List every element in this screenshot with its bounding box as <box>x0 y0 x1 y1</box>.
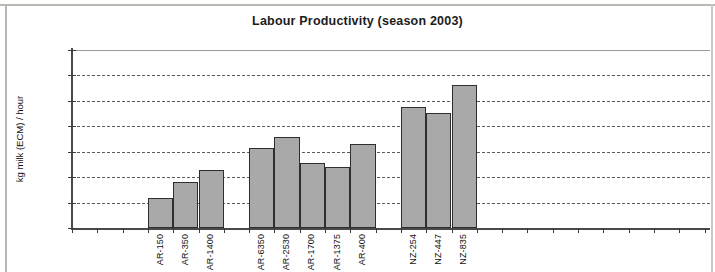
x-tick-mark-1 <box>97 228 98 233</box>
x-tick-mark-2 <box>123 228 124 233</box>
x-tick-label-ar-350: AR-350 <box>180 234 194 265</box>
x-axis-line <box>71 228 710 230</box>
y-tick-mark-50 <box>68 203 76 204</box>
x-tick-label-nz-447: NZ-447 <box>433 234 447 265</box>
plot-area: 050100150200250300350 AR-150AR-350AR-140… <box>72 50 710 228</box>
x-tick-label-ar-150: AR-150 <box>155 234 169 265</box>
page-frame-top-edge <box>0 4 715 6</box>
x-tick-label-ar-1700: AR-1700 <box>306 234 320 270</box>
x-tick-mark-6 <box>224 228 225 233</box>
bar-ar-1375 <box>325 167 350 228</box>
y-tick-mark-250 <box>68 101 76 102</box>
x-tick-label-nz-835: NZ-835 <box>458 234 472 265</box>
bar-ar-350 <box>173 182 198 228</box>
bar-ar-150 <box>148 198 173 229</box>
y-tick-mark-150 <box>68 152 76 153</box>
gridline-250 <box>72 101 710 102</box>
x-tick-mark-22 <box>629 228 630 233</box>
y-tick-mark-100 <box>68 177 76 178</box>
bar-ar-2530 <box>274 137 299 228</box>
x-tick-label-ar-2530: AR-2530 <box>281 234 295 270</box>
x-tick-label-ar-1400: AR-1400 <box>205 234 219 270</box>
bar-ar-1400 <box>199 170 224 228</box>
x-tick-mark-23 <box>654 228 655 233</box>
x-tick-mark-5 <box>199 228 200 233</box>
x-tick-mark-11 <box>350 228 351 233</box>
gridline-300 <box>72 75 710 76</box>
x-tick-label-ar-6350: AR-6350 <box>256 234 270 270</box>
x-tick-mark-7 <box>249 228 250 233</box>
bar-nz-835 <box>452 85 477 228</box>
x-tick-mark-4 <box>173 228 174 233</box>
page-frame-left-edge <box>5 4 7 272</box>
x-tick-mark-21 <box>603 228 604 233</box>
gridline-350 <box>72 50 710 51</box>
x-tick-label-ar-400: AR-400 <box>357 234 371 265</box>
x-tick-mark-20 <box>578 228 579 233</box>
x-tick-mark-17 <box>502 228 503 233</box>
chart-figure: Labour Productivity (season 2003) kg mil… <box>0 0 715 272</box>
page-frame-right-edge <box>711 4 713 272</box>
x-tick-label-ar-1375: AR-1375 <box>332 234 346 270</box>
x-tick-mark-12 <box>376 228 377 233</box>
x-tick-mark-9 <box>300 228 301 233</box>
x-tick-mark-10 <box>325 228 326 233</box>
x-tick-mark-8 <box>274 228 275 233</box>
gridline-200 <box>72 126 710 127</box>
x-tick-mark-25 <box>705 228 706 233</box>
x-tick-mark-19 <box>553 228 554 233</box>
x-tick-mark-3 <box>148 228 149 233</box>
y-tick-mark-350 <box>68 50 76 51</box>
y-tick-mark-300 <box>68 75 76 76</box>
x-tick-mark-13 <box>401 228 402 233</box>
y-axis-title: kg milk (ECM) / hour <box>14 50 28 228</box>
x-tick-mark-15 <box>452 228 453 233</box>
x-tick-mark-24 <box>679 228 680 233</box>
y-tick-mark-200 <box>68 126 76 127</box>
bar-nz-447 <box>426 113 451 228</box>
x-tick-mark-18 <box>527 228 528 233</box>
chart-title: Labour Productivity (season 2003) <box>0 14 715 28</box>
x-tick-mark-0 <box>72 228 73 233</box>
gridline-150 <box>72 152 710 153</box>
bar-nz-254 <box>401 107 426 228</box>
x-tick-mark-16 <box>477 228 478 233</box>
gridline-100 <box>72 177 710 178</box>
bar-ar-6350 <box>249 148 274 228</box>
bar-ar-400 <box>350 144 375 228</box>
bar-ar-1700 <box>300 163 325 228</box>
x-tick-label-nz-254: NZ-254 <box>408 234 422 265</box>
x-tick-mark-14 <box>426 228 427 233</box>
